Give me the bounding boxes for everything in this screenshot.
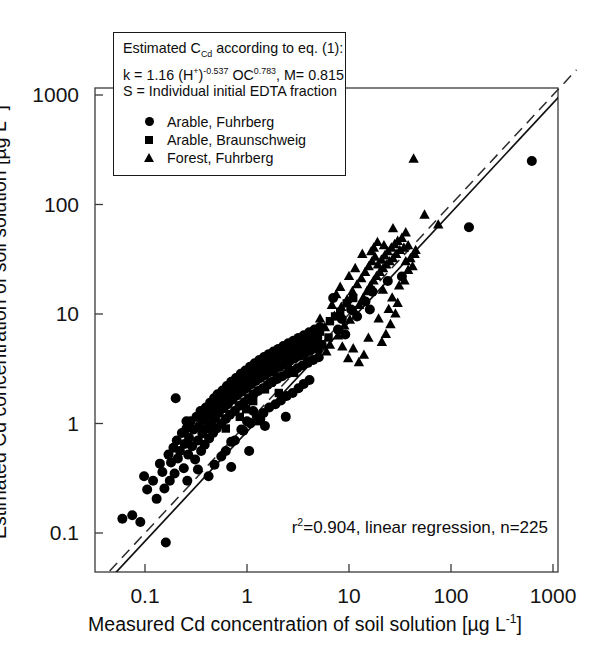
equation-line-2-c: OC	[228, 66, 253, 82]
legend-item-forest-fuhrberg: Forest, Fuhrberg	[123, 149, 337, 166]
regression-stats-text: =0.904, linear regression, n=225	[303, 518, 548, 537]
data-point-arable-braunschweig	[266, 379, 274, 387]
data-point-arable-fuhrberg	[209, 460, 219, 470]
figure-container: Measured Cd concentration of soil soluti…	[0, 0, 610, 663]
data-point-arable-fuhrberg	[305, 375, 315, 385]
x-tick-label-1: 1	[241, 584, 253, 608]
legend-label-arable-braunschweig: Arable, Braunschweig	[167, 132, 306, 148]
data-point-arable-braunschweig	[287, 366, 295, 374]
data-point-arable-braunschweig	[314, 345, 322, 353]
y-tick-label-0p1: 0.1	[0, 521, 79, 545]
x-axis-title-exponent: -1	[506, 612, 517, 626]
regression-statistics-annotation: r2=0.904, linear regression, n=225	[292, 516, 548, 538]
data-point-arable-fuhrberg	[161, 537, 171, 547]
equation-line-1-subscript: Cd	[201, 49, 212, 59]
legend-item-arable-fuhrberg: Arable, Fuhrberg	[123, 113, 337, 130]
data-point-arable-fuhrberg	[193, 465, 203, 475]
data-point-forest-fuhrberg	[388, 223, 398, 232]
data-point-arable-braunschweig	[249, 397, 257, 405]
legend: Arable, Fuhrberg Arable, Braunschweig Fo…	[123, 113, 337, 166]
data-point-forest-fuhrberg	[387, 292, 397, 301]
data-point-arable-fuhrberg	[171, 393, 181, 403]
data-point-arable-braunschweig	[298, 344, 306, 352]
data-point-arable-fuhrberg	[204, 471, 214, 481]
data-point-forest-fuhrberg	[348, 343, 358, 352]
legend-label-forest-fuhrberg: Forest, Fuhrberg	[167, 150, 273, 166]
data-point-forest-fuhrberg	[433, 219, 443, 228]
data-point-arable-fuhrberg	[155, 459, 165, 469]
data-point-forest-fuhrberg	[381, 329, 391, 338]
equation-line-1-prefix: Estimated C	[123, 40, 201, 56]
data-point-arable-fuhrberg	[157, 467, 167, 477]
data-point-arable-braunschweig	[254, 417, 262, 425]
legend-label-arable-fuhrberg: Arable, Fuhrberg	[167, 114, 274, 130]
data-point-arable-fuhrberg	[179, 463, 189, 473]
data-point-arable-fuhrberg	[383, 276, 393, 286]
data-point-arable-fuhrberg	[190, 454, 200, 464]
data-point-forest-fuhrberg	[337, 341, 347, 350]
data-point-forest-fuhrberg	[343, 353, 353, 362]
legend-item-arable-braunschweig: Arable, Braunschweig	[123, 131, 337, 148]
equation-line-1: Estimated CCd according to eq. (1):	[123, 40, 337, 63]
data-point-forest-fuhrberg	[401, 227, 411, 236]
data-point-arable-braunschweig	[242, 405, 250, 413]
data-point-arable-fuhrberg	[464, 222, 474, 232]
data-point-forest-fuhrberg	[385, 319, 395, 328]
data-point-forest-fuhrberg	[373, 313, 383, 322]
equation-line-2: k = 1.16 (H+)-0.537 OC0.783, M= 0.815	[123, 63, 337, 84]
data-point-arable-fuhrberg	[230, 435, 240, 445]
data-point-arable-fuhrberg	[365, 304, 375, 314]
data-point-forest-fuhrberg	[408, 153, 418, 162]
x-tick-label-1000: 1000	[530, 584, 577, 608]
data-point-arable-braunschweig	[275, 389, 283, 397]
data-point-arable-fuhrberg	[139, 471, 149, 481]
data-point-forest-fuhrberg	[335, 282, 345, 291]
x-tick-label-0p1: 0.1	[130, 584, 159, 608]
y-axis-title-exponent: -1	[0, 110, 1, 121]
data-point-forest-fuhrberg	[419, 209, 429, 218]
data-point-arable-fuhrberg	[226, 462, 236, 472]
data-point-forest-fuhrberg	[315, 313, 325, 322]
equation-line-1-suffix: according to eq. (1):	[212, 40, 343, 56]
equation-line-2-a: k = 1.16 (H	[123, 66, 193, 82]
x-axis-title-bracket: ]	[517, 613, 522, 635]
equation-line-2-sup-ph: -0.537	[203, 66, 228, 76]
square-marker-icon	[137, 136, 161, 144]
equation-line-2-d: , M= 0.815	[276, 66, 344, 82]
data-point-arable-fuhrberg	[221, 446, 231, 456]
data-point-arable-fuhrberg	[152, 494, 162, 504]
data-point-arable-fuhrberg	[238, 426, 248, 436]
data-point-arable-fuhrberg	[182, 476, 192, 486]
data-point-arable-fuhrberg	[127, 510, 137, 520]
data-point-arable-fuhrberg	[148, 476, 158, 486]
y-axis-title-text: Estimated Cd concentration of soil solut…	[0, 121, 10, 539]
y-tick-label-1: 1	[0, 412, 79, 436]
data-point-arable-braunschweig	[236, 413, 244, 421]
equation-legend-box: Estimated CCd according to eq. (1): k = …	[113, 32, 346, 176]
data-point-arable-fuhrberg	[170, 468, 180, 478]
data-point-forest-fuhrberg	[383, 304, 393, 313]
y-tick-label-10: 10	[0, 302, 79, 326]
data-point-arable-fuhrberg	[135, 517, 145, 527]
data-point-forest-fuhrberg	[372, 237, 382, 246]
y-tick-label-100: 100	[0, 193, 79, 217]
x-tick-label-100: 100	[433, 584, 468, 608]
equation-line-2-sup-oc: 0.783	[254, 66, 276, 76]
y-tick-label-1000: 1000	[0, 83, 79, 107]
data-point-arable-fuhrberg	[244, 446, 254, 456]
data-point-forest-fuhrberg	[357, 249, 367, 258]
data-point-arable-fuhrberg	[281, 412, 291, 422]
equation-line-3: S = Individual initial EDTA fraction	[123, 83, 337, 100]
data-point-arable-braunschweig	[324, 333, 332, 341]
data-point-forest-fuhrberg	[359, 349, 369, 358]
data-point-forest-fuhrberg	[363, 332, 373, 341]
data-point-arable-braunschweig	[303, 357, 311, 365]
triangle-marker-icon	[137, 153, 161, 162]
x-axis-title-text: Measured Cd concentration of soil soluti…	[88, 613, 506, 635]
data-point-arable-fuhrberg	[527, 156, 537, 166]
data-point-arable-fuhrberg	[181, 416, 191, 426]
circle-marker-icon	[137, 117, 161, 126]
data-point-arable-fuhrberg	[142, 484, 152, 494]
x-tick-label-10: 10	[337, 584, 360, 608]
x-axis-title: Measured Cd concentration of soil soluti…	[88, 612, 522, 636]
